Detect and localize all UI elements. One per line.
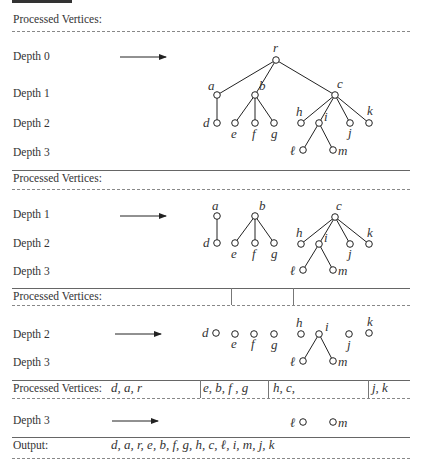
tree-3-edges (303, 334, 333, 361)
svg-text:b: b (259, 198, 266, 213)
svg-text:c: c (336, 198, 342, 213)
svg-text:d: d (203, 235, 210, 250)
tree-2-labels: a b c d e f g h i j k ℓ m (203, 198, 373, 278)
svg-text:g: g (271, 337, 278, 352)
tree-4-labels: ℓ m (290, 415, 347, 430)
svg-text:f: f (251, 336, 257, 351)
svg-text:m: m (338, 143, 347, 158)
svg-text:i: i (324, 230, 328, 245)
svg-text:ℓ: ℓ (290, 143, 296, 158)
svg-text:m: m (338, 263, 347, 278)
svg-text:d: d (203, 115, 210, 130)
svg-text:h: h (296, 225, 303, 240)
svg-text:c: c (337, 76, 343, 91)
svg-text:a: a (208, 78, 215, 93)
tree-3-labels: d e f g h i j k ℓ m (202, 314, 373, 369)
svg-text:f: f (252, 126, 258, 141)
svg-text:e: e (231, 246, 237, 261)
tree-2-edges (217, 216, 369, 270)
svg-text:m: m (338, 415, 347, 430)
tree-1-labels: r a b c d e f g h i j k ℓ m (203, 40, 373, 158)
tree-1-edges (217, 60, 369, 150)
svg-text:i: i (325, 319, 329, 334)
svg-text:m: m (338, 354, 347, 369)
svg-text:g: g (271, 246, 278, 261)
svg-text:h: h (296, 104, 303, 119)
tree-4-nodes (300, 419, 337, 426)
svg-text:i: i (324, 109, 328, 124)
svg-text:ℓ: ℓ (290, 354, 296, 369)
svg-text:f: f (252, 246, 258, 261)
svg-text:e: e (231, 336, 237, 351)
svg-text:g: g (271, 126, 278, 141)
svg-text:j: j (346, 125, 352, 140)
svg-text:k: k (367, 225, 373, 240)
tree-diagram: r a b c d e f g h i j k ℓ m a b c d (0, 0, 421, 470)
svg-text:j: j (345, 337, 351, 352)
svg-text:r: r (273, 40, 279, 55)
svg-text:e: e (231, 126, 237, 141)
svg-text:a: a (212, 198, 219, 213)
svg-text:ℓ: ℓ (290, 415, 296, 430)
svg-text:d: d (202, 325, 209, 340)
svg-text:k: k (367, 314, 373, 329)
svg-text:ℓ: ℓ (290, 263, 296, 278)
svg-text:b: b (259, 78, 266, 93)
svg-text:h: h (296, 315, 303, 330)
svg-text:j: j (346, 246, 352, 261)
svg-text:k: k (367, 103, 373, 118)
